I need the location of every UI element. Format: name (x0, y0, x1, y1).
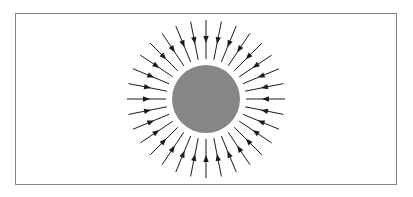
charged-sphere (172, 65, 240, 133)
figure-canvas (0, 0, 413, 197)
field-diagram (0, 0, 413, 197)
